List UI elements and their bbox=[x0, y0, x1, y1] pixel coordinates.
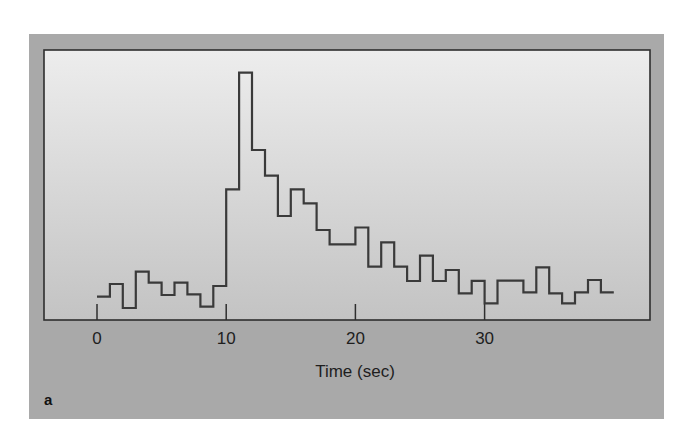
figure-panel: 0102030 Time (sec) a bbox=[0, 0, 686, 435]
x-tick-label: 0 bbox=[92, 329, 101, 348]
x-tick-label: 10 bbox=[217, 329, 236, 348]
x-tick-label: 20 bbox=[346, 329, 365, 348]
x-tick-label: 30 bbox=[475, 329, 494, 348]
panel-label: a bbox=[44, 391, 53, 408]
x-axis-label: Time (sec) bbox=[315, 362, 395, 381]
chart-svg: 0102030 Time (sec) a bbox=[0, 0, 686, 435]
